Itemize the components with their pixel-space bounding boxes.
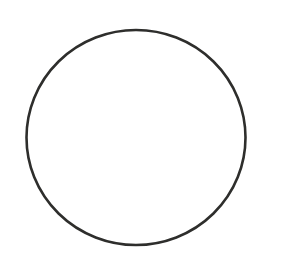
circle-figure-svg xyxy=(0,0,302,279)
canvas-background xyxy=(0,0,302,279)
figure-canvas: Circle Outline xyxy=(0,0,302,279)
